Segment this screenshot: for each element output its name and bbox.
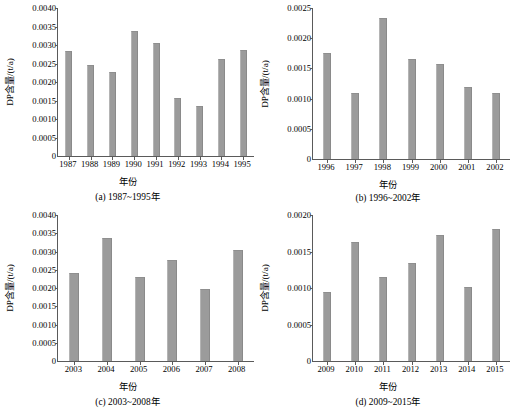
x-tick-label: 2003: [65, 365, 82, 374]
x-tick-label: 2009: [317, 365, 334, 374]
bar: [87, 65, 94, 156]
y-tick-label: 0.0020: [32, 284, 56, 293]
y-tick-mark: [55, 27, 58, 28]
x-axis-title-d: 年份: [255, 379, 521, 393]
y-tick-mark: [310, 288, 313, 289]
y-tick-mark: [55, 8, 58, 9]
x-tick-label: 2012: [402, 365, 419, 374]
y-axis-ticks-b: 00.00050.00100.00150.00200.0025: [269, 8, 311, 159]
y-tick-mark: [55, 233, 58, 234]
bar-series-d: [313, 215, 510, 361]
y-tick-mark: [310, 129, 313, 130]
x-axis-title-b: 年份: [255, 177, 521, 191]
y-tick-label: 0.0015: [32, 96, 56, 105]
bar: [408, 59, 416, 159]
bar-series-b: [313, 8, 510, 159]
x-tick-label: 2005: [130, 365, 147, 374]
y-tick-mark: [55, 252, 58, 253]
plot-area-d: [312, 215, 510, 362]
y-tick-label: 0.0005: [287, 320, 311, 329]
bar: [464, 287, 472, 361]
bar: [196, 106, 203, 156]
y-tick-mark: [55, 101, 58, 102]
x-tick-label: 1992: [168, 160, 185, 169]
x-tick-label: 2015: [486, 365, 503, 374]
bar: [464, 87, 472, 159]
bar-series-a: [58, 8, 254, 156]
y-tick-mark: [310, 68, 313, 69]
panel-caption-a: (a) 1987~1995年: [0, 189, 255, 203]
y-tick-mark: [310, 8, 313, 9]
y-tick-label: 0.0010: [32, 115, 56, 124]
y-tick-mark: [55, 306, 58, 307]
y-tick-mark: [55, 343, 58, 344]
y-tick-label: 0.0015: [32, 302, 56, 311]
x-tick-label: 1990: [125, 160, 142, 169]
y-tick-label: 0.0020: [287, 34, 311, 43]
bar: [436, 64, 444, 159]
y-tick-mark: [310, 38, 313, 39]
y-tick-label: 0.0005: [32, 338, 56, 347]
bar: [436, 235, 444, 361]
bar: [135, 277, 145, 361]
bar: [379, 18, 387, 159]
x-tick-label: 1996: [317, 163, 334, 172]
y-tick-label: 0.0025: [32, 265, 56, 274]
bar: [69, 273, 79, 361]
bar: [351, 242, 359, 361]
y-tick-mark: [55, 215, 58, 216]
x-tick-label: 1995: [234, 160, 251, 169]
y-tick-mark: [310, 325, 313, 326]
x-tick-label: 1988: [81, 160, 98, 169]
bar: [351, 93, 359, 159]
chart-panel-c: DP含量/(t/a) 00.00050.00100.00150.00200.00…: [0, 205, 255, 420]
x-tick-label: 2004: [97, 365, 114, 374]
chart-panel-d: DP含量/(t/a) 00.00050.00100.00150.0020 200…: [255, 205, 521, 420]
x-tick-label: 2008: [228, 365, 245, 374]
bar: [492, 93, 500, 159]
y-tick-mark: [55, 270, 58, 271]
y-tick-label: 0.0015: [287, 247, 311, 256]
panel-caption-c: (c) 2003~2008年: [0, 394, 255, 408]
y-tick-label: 0.0025: [287, 4, 311, 13]
y-tick-label: 0.0040: [32, 4, 56, 13]
y-tick-mark: [310, 215, 313, 216]
x-tick-label: 2013: [430, 365, 447, 374]
y-tick-label: 0.0035: [32, 22, 56, 31]
x-tick-label: 2006: [163, 365, 180, 374]
y-tick-mark: [55, 138, 58, 139]
y-tick-mark: [310, 252, 313, 253]
bar: [174, 98, 181, 156]
y-tick-label: 0.0010: [287, 94, 311, 103]
y-tick-label: 0.0030: [32, 247, 56, 256]
x-tick-label: 2000: [430, 163, 447, 172]
bar: [109, 72, 116, 156]
bar: [200, 289, 210, 361]
bar-series-c: [58, 215, 254, 361]
x-tick-label: 2001: [458, 163, 475, 172]
y-tick-label: 0.0025: [32, 59, 56, 68]
chart-panel-b: DP含量/(t/a) 00.00050.00100.00150.00200.00…: [255, 0, 521, 205]
bar: [240, 50, 247, 156]
y-tick-label: 0: [52, 152, 56, 161]
y-tick-label: 0.0020: [32, 78, 56, 87]
bar: [65, 51, 72, 156]
y-tick-label: 0.0010: [32, 320, 56, 329]
x-tick-label: 1994: [212, 160, 229, 169]
figure-bar-chart-grid: DP含量/(t/a) 00.00050.00100.00150.00200.00…: [0, 0, 521, 420]
y-tick-label: 0: [52, 357, 56, 366]
bar: [233, 250, 243, 361]
y-tick-label: 0: [307, 357, 311, 366]
y-tick-mark: [55, 82, 58, 83]
plot-area-c: [57, 215, 254, 362]
y-tick-mark: [55, 325, 58, 326]
y-tick-mark: [55, 45, 58, 46]
y-tick-label: 0.0030: [32, 41, 56, 50]
y-axis-ticks-c: 00.00050.00100.00150.00200.00250.00300.0…: [14, 215, 56, 361]
x-axis-title-c: 年份: [0, 379, 255, 393]
panel-caption-b: (b) 1996~2002年: [255, 190, 521, 204]
x-tick-label: 2014: [458, 365, 475, 374]
panel-caption-d: (d) 2009~2015年: [255, 394, 521, 408]
y-tick-mark: [55, 119, 58, 120]
plot-area-a: [57, 8, 254, 157]
